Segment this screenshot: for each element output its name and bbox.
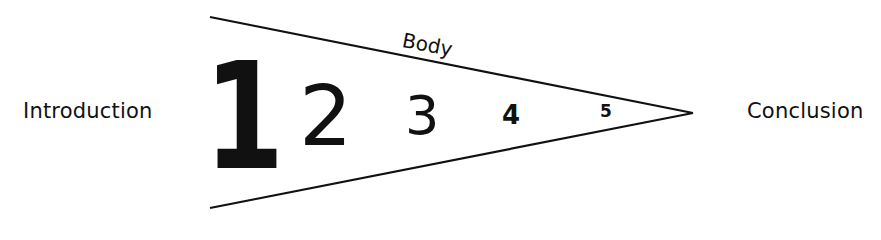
section-number-4: 4 (502, 102, 520, 128)
section-number-2: 2 (299, 74, 352, 158)
section-number-3: 3 (405, 89, 439, 143)
conclusion-label: Conclusion (747, 99, 863, 123)
section-number-1: 1 (204, 43, 284, 191)
section-number-5: 5 (600, 103, 612, 120)
